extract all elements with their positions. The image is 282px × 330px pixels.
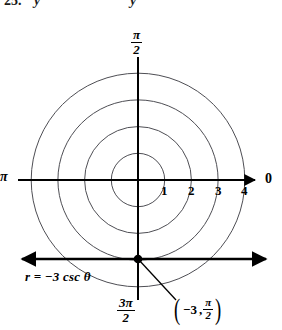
angle-label-3pi-over-2: 3π 2	[117, 296, 135, 324]
tick-label-2: 2	[188, 184, 195, 197]
angle-label-pi-over-2: π 2	[131, 28, 142, 56]
plotted-point-marker	[134, 255, 143, 264]
point-leader-line	[139, 260, 176, 300]
tick-label-3: 3	[215, 184, 222, 197]
point-theta-numerator: π	[203, 297, 213, 310]
point-r-value: −3	[182, 303, 198, 316]
polar-graph-figure: 25. y y 0 π	[0, 0, 282, 330]
tick-label-1: 1	[161, 184, 168, 197]
equation-label: r = −3 csc θ	[25, 270, 91, 283]
open-paren: (	[174, 297, 180, 321]
three-pi-over-2-denominator: 2	[117, 311, 135, 325]
three-pi-over-2-numerator: 3π	[117, 296, 135, 311]
point-theta-denominator: 2	[203, 310, 213, 322]
point-coordinate-label: ( −3 , π 2 )	[172, 297, 223, 321]
pi-over-2-numerator: π	[131, 28, 142, 43]
pi-over-2-denominator: 2	[131, 43, 142, 57]
angle-label-zero: 0	[265, 172, 272, 186]
tick-label-4: 4	[241, 184, 248, 197]
point-theta-fraction: π 2	[203, 297, 213, 321]
angle-label-pi: π	[0, 170, 8, 184]
close-paren: )	[215, 297, 221, 321]
